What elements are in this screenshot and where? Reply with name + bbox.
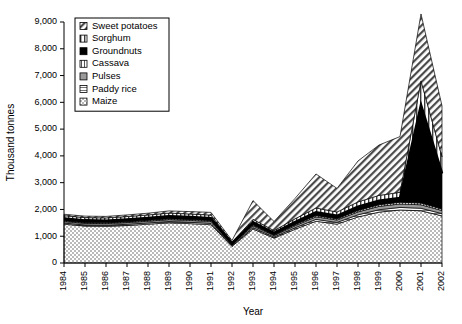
y-tick-label: 4,000 [34,150,57,160]
x-axis-title: Year [243,306,264,317]
x-tick-label: 1992 [226,271,236,291]
x-tick-label: 1984 [58,271,68,291]
legend-label-paddy-rice: Paddy rice [92,83,137,94]
chart-legend: Sweet potatoesSorghumGroundnutsCassavaPu… [75,18,169,111]
x-tick-label: 2002 [436,271,446,291]
x-tick-label: 1999 [373,271,383,291]
legend-swatch-sorghum [80,35,87,42]
x-tick-label: 1989 [163,271,173,291]
y-tick-label: 2,000 [34,204,57,214]
x-tick-label: 1991 [205,271,215,291]
x-tick-label: 1998 [352,271,362,291]
legend-label-cassava: Cassava [92,57,130,68]
y-tick-label: 6,000 [34,97,57,107]
legend-swatch-maize [80,98,87,105]
legend-swatch-pulses [80,73,87,80]
y-tick-label: 5,000 [34,123,57,133]
x-tick-label: 1997 [331,271,341,291]
y-tick-label: 3,000 [34,177,57,187]
legend-swatch-cassava [80,60,87,67]
legend-label-sorghum: Sorghum [92,32,131,43]
y-tick-label: 0 [52,257,57,267]
y-tick-label: 1,000 [34,231,57,241]
x-tick-label: 1996 [310,271,320,291]
legend-label-groundnuts: Groundnuts [92,45,142,56]
x-tick-label: 2000 [394,271,404,291]
x-tick-label: 1994 [268,271,278,291]
y-tick-label: 9,000 [34,16,57,26]
y-axis-title: Thousand tonnes [5,104,16,181]
legend-swatch-groundnuts [80,48,87,55]
x-tick-label: 1995 [289,271,299,291]
x-tick-label: 1988 [142,271,152,291]
stacked-area-chart: 01,0002,0003,0004,0005,0006,0007,0008,00… [0,0,462,324]
legend-label-sweet-potatoes: Sweet potatoes [92,20,158,31]
legend-swatch-paddy-rice [80,86,87,93]
y-tick-label: 7,000 [34,70,57,80]
y-tick-label: 8,000 [34,43,57,53]
legend-swatch-sweet-potatoes [80,23,87,30]
x-tick-label: 1985 [79,271,89,291]
x-tick-label: 1987 [121,271,131,291]
x-tick-label: 1993 [247,271,257,291]
x-tick-label: 2001 [415,271,425,291]
x-tick-label: 1990 [184,271,194,291]
chart-container: 01,0002,0003,0004,0005,0006,0007,0008,00… [0,0,462,324]
legend-label-maize: Maize [92,95,117,106]
legend-label-pulses: Pulses [92,70,121,81]
x-tick-label: 1986 [100,271,110,291]
